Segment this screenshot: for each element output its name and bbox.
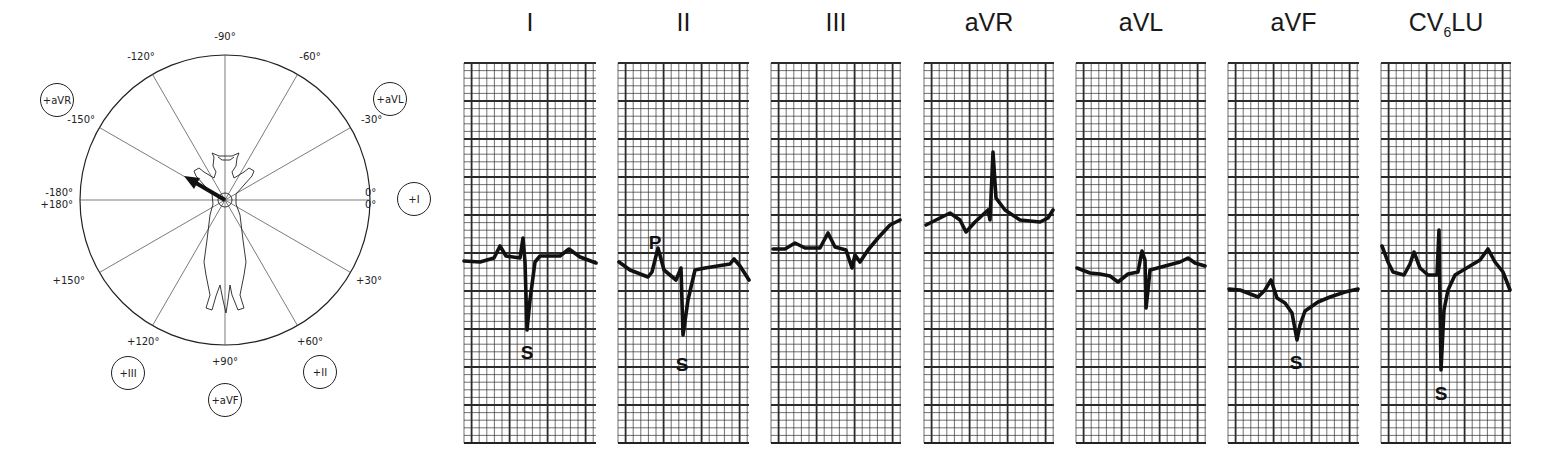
ecg-trace bbox=[1077, 251, 1205, 308]
lead-badge-ii: +II bbox=[304, 356, 337, 389]
angle-labels: -90°-60°-30°0°0°+30°+60°+90°+120°+150°+1… bbox=[41, 31, 383, 367]
ecg-trace bbox=[1229, 280, 1358, 340]
svg-text:+II: +II bbox=[313, 367, 327, 378]
angle-label: -120° bbox=[127, 51, 155, 62]
lead-strip-avr: aVR bbox=[920, 0, 1058, 468]
svg-text:+aVF: +aVF bbox=[211, 395, 238, 406]
lead-badge-avr: +aVR bbox=[41, 84, 74, 117]
ecg-trace bbox=[1382, 230, 1510, 370]
angle-label: +120° bbox=[127, 336, 159, 347]
lead-strip-i: IS bbox=[460, 0, 600, 468]
ecg-trace bbox=[464, 238, 596, 330]
cat-figure-icon bbox=[194, 153, 254, 313]
svg-text:+aVL: +aVL bbox=[377, 94, 404, 105]
lead-strip-ii: IIPS bbox=[614, 0, 753, 468]
wave-label-s: S bbox=[521, 342, 534, 363]
ecg-grid: S bbox=[1224, 0, 1363, 468]
lead-strip-avl: aVL bbox=[1072, 0, 1210, 468]
lead-strip-avf: aVFS bbox=[1224, 0, 1363, 468]
lead-strip-iii: III bbox=[767, 0, 905, 468]
lead-strip-cv6lu: CV6LUS bbox=[1377, 0, 1515, 468]
svg-text:+aVR: +aVR bbox=[43, 95, 71, 106]
angle-label: 0° bbox=[365, 199, 376, 210]
lead-badge-avl: +aVL bbox=[374, 83, 407, 116]
angle-label: -30° bbox=[361, 114, 382, 125]
angle-label: -60° bbox=[299, 51, 320, 62]
svg-text:+I: +I bbox=[408, 194, 419, 205]
lead-badge-avf: +aVF bbox=[209, 384, 242, 417]
angle-label: -150° bbox=[67, 114, 95, 125]
ecg-grid: PS bbox=[614, 0, 753, 468]
angle-label: -180° bbox=[45, 187, 73, 198]
wave-label-s: S bbox=[1435, 383, 1448, 404]
ecg-grid: S bbox=[1377, 0, 1515, 468]
hexaxial-diagram: -90°-60°-30°0°0°+30°+60°+90°+120°+150°+1… bbox=[0, 0, 450, 468]
wave-label-s: S bbox=[1290, 352, 1303, 373]
svg-text:+III: +III bbox=[119, 368, 136, 379]
wave-label-s: S bbox=[676, 354, 689, 375]
ecg-grid: S bbox=[460, 0, 600, 468]
angle-label: +60° bbox=[297, 336, 323, 347]
angle-label: -90° bbox=[214, 31, 235, 42]
ecg-grid bbox=[1072, 0, 1210, 468]
angle-label: 0° bbox=[365, 187, 376, 198]
lead-badge-iii: +III bbox=[112, 357, 145, 390]
angle-label: +30° bbox=[356, 275, 382, 286]
lead-badge-i: +I bbox=[398, 183, 431, 216]
mean-axis-arrow-icon bbox=[184, 176, 225, 200]
angle-label: +150° bbox=[53, 275, 85, 286]
wave-label-p: P bbox=[649, 232, 662, 253]
ecg-grid bbox=[920, 0, 1058, 468]
angle-label: +180° bbox=[41, 199, 73, 210]
ecg-grid bbox=[767, 0, 905, 468]
angle-label: +90° bbox=[212, 356, 238, 367]
